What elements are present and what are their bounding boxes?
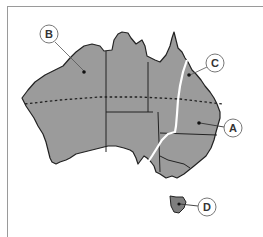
svg-text:B: B (45, 28, 53, 40)
australia-map: B C A D (0, 0, 263, 237)
label-c: C (187, 54, 224, 77)
svg-text:D: D (203, 201, 211, 213)
svg-text:A: A (229, 122, 237, 134)
svg-text:C: C (211, 57, 219, 69)
mainland-australia (22, 32, 220, 178)
